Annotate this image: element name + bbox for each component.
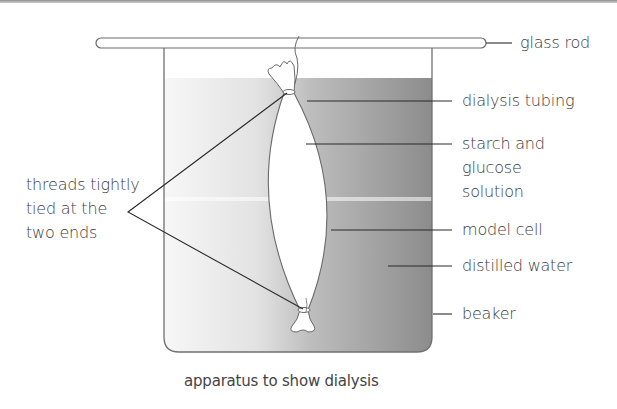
label-dialysis-tubing: dialysis tubing bbox=[462, 90, 574, 111]
glass-rod bbox=[96, 38, 486, 48]
label-threads-line2: tied at the bbox=[26, 198, 107, 219]
label-threads-line1: threads tightly bbox=[26, 174, 140, 195]
label-beaker: beaker bbox=[462, 303, 516, 324]
diagram-caption: apparatus to show dialysis bbox=[184, 372, 379, 390]
label-starch-glucose-line3: solution bbox=[462, 181, 524, 202]
label-glass-rod: glass rod bbox=[520, 32, 590, 53]
label-starch-glucose-line2: glucose bbox=[462, 157, 522, 178]
label-model-cell: model cell bbox=[462, 219, 542, 240]
label-starch-glucose-line1: starch and bbox=[462, 133, 545, 154]
label-distilled-water: distilled water bbox=[462, 255, 572, 276]
label-threads-line3: two ends bbox=[26, 222, 97, 243]
